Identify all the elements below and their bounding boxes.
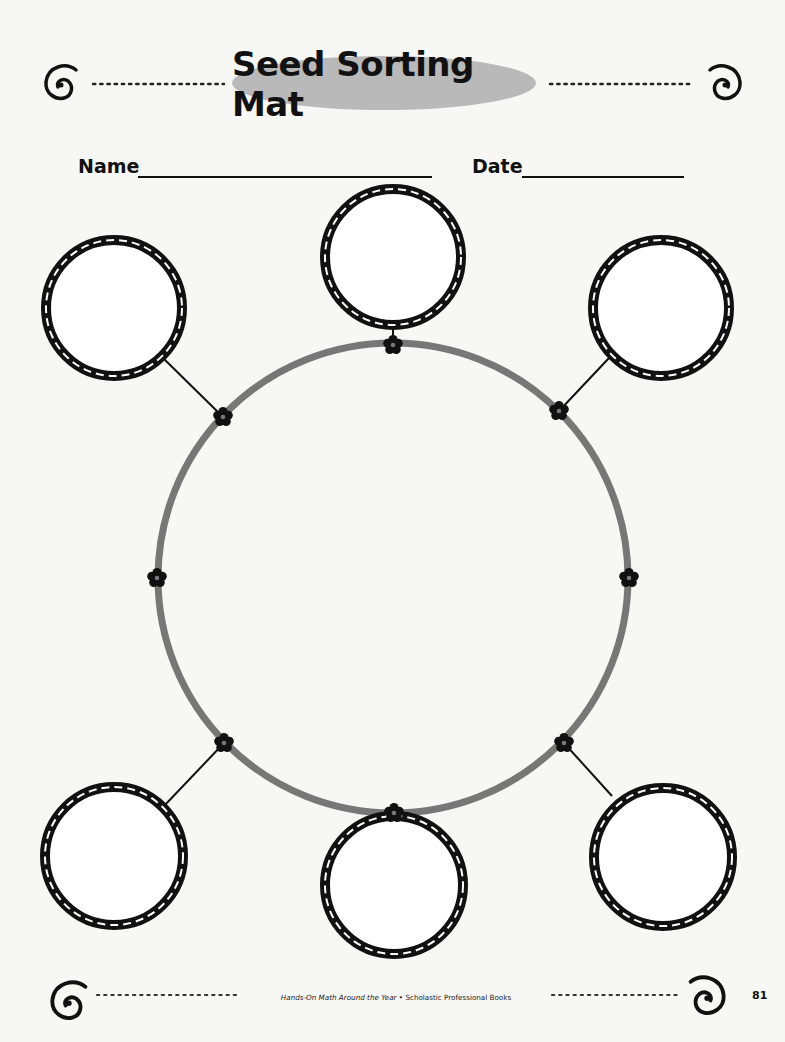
flower-icon (147, 568, 167, 587)
sorting-circle-bottom-right[interactable] (594, 788, 732, 926)
sorting-circle-top-right[interactable] (593, 240, 729, 376)
sorting-circle-top-left[interactable] (46, 240, 182, 376)
flower-icon (384, 803, 404, 822)
date-field[interactable] (522, 176, 684, 178)
name-label: Name (78, 155, 139, 177)
sorting-circle-bottom-left[interactable] (45, 787, 183, 925)
publisher: Scholastic Professional Books (405, 993, 511, 1002)
connector-line (164, 743, 224, 806)
sorting-circle-top[interactable] (325, 189, 461, 325)
name-field[interactable] (138, 176, 432, 178)
spiral-ornament-icon (710, 66, 740, 98)
spiral-ornament-icon (46, 66, 76, 98)
spiral-ornament-icon (691, 977, 724, 1013)
spiral-ornament-icon (52, 982, 85, 1018)
page-title: Seed Sorting Mat (232, 56, 537, 111)
connector-line (162, 357, 223, 417)
connector-line (564, 743, 612, 796)
page-number: 81 (752, 989, 767, 1002)
flower-icon (619, 568, 639, 587)
footer-separator: • (399, 993, 403, 1002)
connector-line (559, 358, 609, 411)
footer-credit: Hands-On Math Around the Year • Scholast… (246, 993, 546, 1002)
flower-icon (383, 335, 403, 354)
book-title: Hands-On Math Around the Year (281, 993, 397, 1002)
date-label: Date (472, 155, 523, 177)
sorting-circle-bottom[interactable] (325, 816, 463, 954)
